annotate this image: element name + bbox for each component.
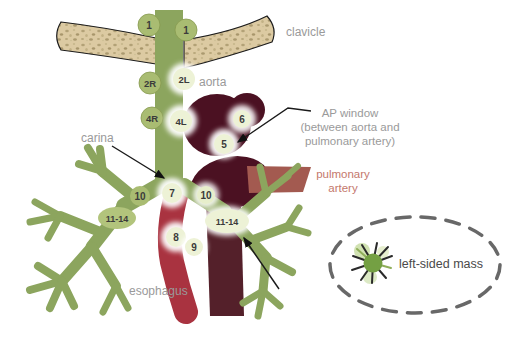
diagram-canvas: 1 1 2R 2L 4R 4L bbox=[0, 0, 510, 337]
node-label: 7 bbox=[169, 188, 175, 199]
svg-text:pulmonary: pulmonary bbox=[316, 168, 370, 180]
node-station-1-right: 1 bbox=[138, 14, 160, 36]
node-station-1-left: 1 bbox=[175, 19, 197, 41]
node-station-2R: 2R bbox=[139, 72, 161, 94]
node-station-9: 9 bbox=[181, 234, 207, 260]
left-sided-mass-label: left-sided mass bbox=[399, 257, 483, 271]
esophagus-label: esophagus bbox=[129, 284, 188, 298]
node-label: 4L bbox=[175, 116, 186, 127]
svg-text:artery: artery bbox=[328, 182, 358, 194]
node-label: 6 bbox=[239, 114, 245, 125]
node-station-4R: 4R bbox=[141, 107, 163, 129]
node-label: 11-14 bbox=[216, 217, 239, 227]
node-station-2L: 2L bbox=[168, 63, 200, 95]
clavicle-left-bone bbox=[184, 16, 274, 68]
svg-text:AP window: AP window bbox=[322, 107, 379, 119]
node-station-5: 5 bbox=[209, 129, 239, 159]
node-label: 8 bbox=[173, 232, 179, 243]
ap-window-label: AP window (between aorta and pulmonary a… bbox=[300, 107, 399, 147]
node-label: 4R bbox=[146, 113, 158, 124]
clavicle-label: clavicle bbox=[286, 25, 326, 39]
node-station-7: 7 bbox=[157, 178, 187, 208]
node-label: 2L bbox=[178, 74, 189, 85]
node-station-11-14-left: 11-14 bbox=[201, 206, 253, 236]
node-label: 5 bbox=[221, 139, 227, 150]
node-label: 9 bbox=[191, 242, 197, 253]
aorta-label: aorta bbox=[199, 75, 227, 89]
svg-text:pulmonary artery): pulmonary artery) bbox=[305, 135, 395, 147]
left-sided-mass-callout: left-sided mass bbox=[330, 217, 500, 313]
node-label: 10 bbox=[200, 190, 212, 201]
node-station-10-right: 10 bbox=[130, 186, 150, 206]
node-label: 2R bbox=[144, 78, 156, 89]
node-label: 11-14 bbox=[106, 214, 129, 224]
node-station-11-14-right: 11-14 bbox=[98, 207, 136, 229]
carina-label: carina bbox=[81, 131, 114, 145]
mediastinal-lymph-node-diagram: 1 1 2R 2L 4R 4L bbox=[0, 0, 510, 337]
node-station-4L: 4L bbox=[165, 105, 197, 137]
node-label: 1 bbox=[183, 25, 189, 36]
node-label: 1 bbox=[146, 20, 152, 31]
node-station-6: 6 bbox=[228, 105, 256, 133]
node-station-10-left: 10 bbox=[193, 182, 219, 208]
pulmonary-artery-label: pulmonary artery bbox=[316, 168, 370, 194]
mass-icon bbox=[352, 243, 392, 284]
node-label: 10 bbox=[134, 191, 146, 202]
svg-text:(between aorta and: (between aorta and bbox=[300, 121, 399, 133]
